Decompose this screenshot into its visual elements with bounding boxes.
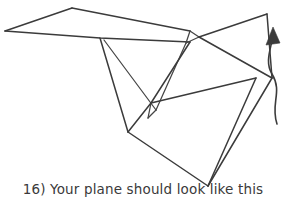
- right-wing-panel: [199, 14, 272, 186]
- fold-crease-left-a-line: [100, 38, 128, 132]
- caption-text: 16) Your plane should look like this: [0, 181, 286, 197]
- body-panel-diagonal-line: [208, 78, 256, 186]
- arrow-curve-path: [268, 34, 277, 124]
- fold-creases: [100, 38, 186, 132]
- body-panel-top-line: [151, 42, 190, 103]
- wing-assembly: [5, 8, 190, 42]
- inner-fold-upper-line: [156, 43, 186, 110]
- wing-trailing-edge-line: [5, 31, 190, 42]
- body-panel: [128, 42, 256, 186]
- wing-notch-right-line: [190, 31, 199, 37]
- body-panel-right-line: [151, 78, 256, 103]
- illustration-page: 16) Your plane should look like this: [0, 0, 286, 208]
- nose-to-top-right-line: [199, 14, 267, 37]
- wing-top-edge-right-line: [72, 8, 190, 31]
- right-lower-edge-line: [208, 78, 272, 186]
- paper-airplane-figure: [0, 0, 286, 208]
- right-wing-diagonal-line: [199, 37, 272, 78]
- left-wing-leading-edge-line: [5, 8, 72, 31]
- body-panel-bottom-line: [128, 132, 208, 186]
